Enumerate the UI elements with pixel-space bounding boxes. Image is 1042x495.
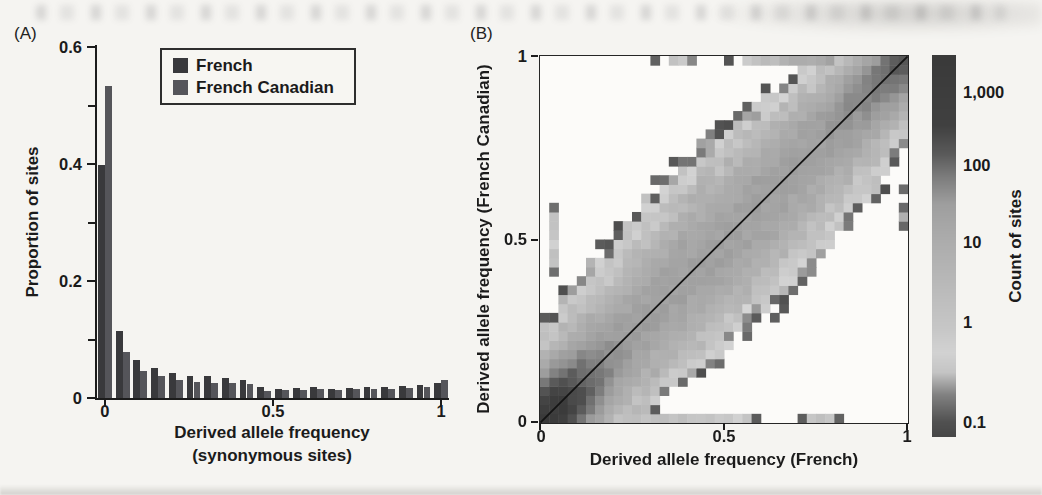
bar-french	[328, 389, 335, 398]
panel-a-label: (A)	[14, 24, 37, 44]
b-heatmap-canvas	[540, 56, 908, 423]
colorbar-tick-label: 1	[963, 312, 1015, 332]
a-y-tick-label: 0.2	[40, 271, 82, 291]
a-y-tick-label: 0.4	[40, 154, 82, 174]
bar-french	[187, 376, 194, 398]
bar-french	[434, 383, 441, 398]
legend-label-french: French	[196, 56, 253, 75]
b-y-axis-title: Derived allele frequency (French Canadia…	[474, 64, 494, 414]
bar-french-canadian	[158, 376, 165, 398]
bar-french	[417, 385, 424, 398]
bar-french	[364, 387, 371, 398]
bar-french-canadian	[388, 389, 395, 398]
bar-french-canadian	[229, 383, 236, 398]
a-x-axis-title-line2: (synonymous sites)	[192, 446, 352, 466]
bar-french	[346, 388, 353, 398]
a-y-tick-major	[87, 397, 95, 399]
page-shadow-bottom	[0, 485, 1042, 495]
bar-french	[116, 331, 123, 398]
bar-french-canadian	[282, 390, 289, 398]
bar-french-canadian	[371, 389, 378, 398]
bar-french-canadian	[211, 383, 218, 398]
a-y-axis-line	[95, 45, 97, 399]
legend-box: French French Canadian	[160, 48, 356, 105]
a-y-tick-major	[87, 163, 95, 165]
colorbar-tick-label: 0.1	[963, 412, 1015, 432]
a-y-tick-label: 0.6	[40, 37, 82, 57]
colorbar-title: Count of sites	[1006, 189, 1026, 302]
a-y-tick-label: 0	[40, 388, 82, 408]
a-y-tick-minor	[88, 222, 95, 224]
bar-french	[204, 376, 211, 398]
b-x-tick-label: 0	[536, 426, 545, 446]
bar-french-canadian	[194, 382, 201, 398]
b-x-tick-label: 1	[902, 426, 911, 446]
bar-french-canadian	[424, 387, 431, 398]
b-y-tick-label: 0.5	[497, 229, 527, 249]
a-x-tick-label: 0.5	[262, 401, 285, 421]
bar-french-canadian	[406, 388, 413, 398]
bar-french	[151, 368, 158, 398]
b-y-tick	[531, 239, 538, 241]
legend-swatch-french	[173, 58, 188, 73]
figure-container: (A) 0.6 0.4 0.2 0 0 0.5 1 Proportion of …	[0, 0, 1042, 495]
b-y-tick-label: 1	[497, 46, 527, 66]
bar-french	[293, 388, 300, 398]
a-y-tick-major	[87, 46, 95, 48]
bar-french-canadian	[300, 390, 307, 398]
bar-french	[381, 387, 388, 398]
a-y-tick-minor	[88, 105, 95, 107]
bar-french	[257, 387, 264, 398]
bar-french-canadian	[441, 380, 448, 398]
panel-b-label: (B)	[470, 24, 493, 44]
a-y-tick-major	[87, 280, 95, 282]
bar-french	[133, 360, 140, 398]
a-x-tick-label: 0	[100, 401, 109, 421]
colorbar-tick-label: 100	[963, 155, 1015, 175]
bar-french-canadian	[105, 86, 112, 398]
bar-french	[98, 165, 105, 398]
bar-french	[169, 373, 176, 398]
bar-french-canadian	[335, 390, 342, 398]
a-x-tick-label: 1	[437, 401, 446, 421]
bar-french-canadian	[353, 389, 360, 398]
b-x-tick-label: 0.5	[713, 426, 736, 446]
colorbar-canvas	[932, 55, 956, 437]
b-y-tick	[531, 55, 538, 57]
page-bleed-artifact-top-right	[712, 0, 1042, 34]
b-y-tick	[531, 421, 538, 423]
bar-french-canadian	[264, 391, 271, 398]
a-y-axis-title: Proportion of sites	[23, 146, 43, 297]
bar-french	[310, 387, 317, 398]
b-x-axis-title: Derived allele frequency (French)	[590, 450, 858, 470]
bar-french-canadian	[123, 352, 130, 398]
bar-french	[222, 378, 229, 398]
colorbar-tick-label: 1,000	[963, 82, 1015, 102]
legend-swatch-french-canadian	[173, 80, 188, 95]
bar-french	[240, 380, 247, 398]
a-y-tick-minor	[88, 339, 95, 341]
legend-item-french: French	[173, 56, 354, 75]
legend-label-french-canadian: French Canadian	[196, 78, 334, 97]
bar-french	[399, 386, 406, 398]
bar-french	[275, 389, 282, 398]
legend-item-french-canadian: French Canadian	[173, 78, 354, 97]
a-x-axis-title-line1: Derived allele frequency	[174, 423, 370, 443]
bar-french-canadian	[317, 389, 324, 398]
b-y-tick-label: 0	[497, 411, 527, 431]
bar-french-canadian	[140, 371, 147, 398]
bar-french-canadian	[176, 380, 183, 398]
bar-french-canadian	[247, 384, 254, 398]
